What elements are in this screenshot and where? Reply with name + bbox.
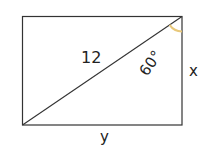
side-x-label: x [189,62,198,80]
diagonal-line [23,17,183,126]
diagram-canvas: 12 60° x y [0,0,211,155]
diagonal-length-label: 12 [81,48,101,67]
angle-label: 60° [136,47,166,79]
angle-arc-icon [170,25,182,32]
side-y-label: y [100,128,109,146]
